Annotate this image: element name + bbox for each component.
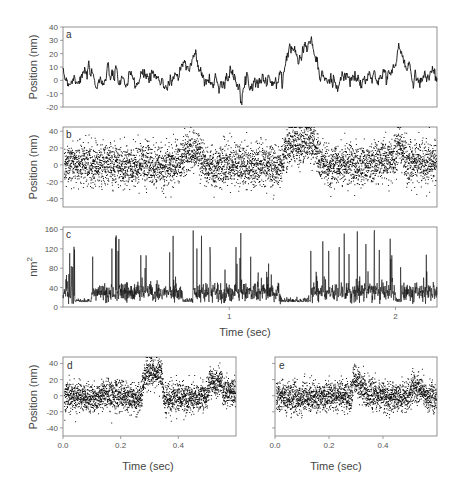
panel-b-label: b	[66, 129, 72, 140]
x-tick-label: 0.2	[323, 441, 335, 450]
panel-b: -40-2002040 b Position (nm)	[27, 127, 437, 207]
panel-d-label: d	[67, 360, 73, 371]
panel-c-ylabel-base: nm	[27, 262, 39, 277]
panel-c-label: c	[66, 229, 71, 240]
y-tick-label: 0	[54, 161, 59, 170]
panel-e-xlabel: Time (sec)	[310, 460, 362, 472]
y-tick-label: 0	[54, 303, 59, 312]
panel-d-xlabel: Time (sec)	[122, 460, 174, 472]
panel-b-ylabel: Position (nm)	[27, 135, 39, 200]
x-tick-label: 0.2	[115, 441, 127, 450]
y-tick-label: 20	[49, 144, 58, 153]
y-tick-label: -20	[46, 178, 58, 187]
panel-d-scatter	[64, 357, 236, 424]
y-tick-label: -20	[46, 408, 58, 417]
panel-c-x-ticks: 12	[227, 307, 398, 321]
panel-c-y-ticks: 04080120160	[45, 225, 63, 312]
panel-a-frame	[63, 27, 437, 107]
panel-e-label: e	[279, 360, 285, 371]
scatter-points	[64, 127, 437, 199]
panel-e: 0.00.20.4 e Time (sec)	[269, 357, 437, 472]
y-tick-label: -10	[46, 90, 58, 99]
x-tick-label: 0.0	[269, 441, 281, 450]
panel-a-label: a	[66, 29, 72, 40]
y-tick-label: 0	[54, 76, 59, 85]
figure: -20-10010203040 a Position (nm) -40-2002…	[0, 0, 465, 499]
y-tick-label: 40	[49, 359, 58, 368]
panel-e-y-ticks	[272, 363, 275, 427]
panel-a: -20-10010203040 a Position (nm)	[27, 23, 437, 112]
panel-e-x-ticks: 0.00.20.4	[269, 436, 389, 450]
y-tick-label: 120	[45, 245, 59, 254]
y-tick-label: 10	[49, 63, 58, 72]
y-tick-label: -20	[46, 103, 58, 112]
x-tick-label: 0.4	[173, 441, 185, 450]
scatter-points	[64, 357, 236, 424]
y-tick-label: 20	[49, 50, 58, 59]
y-tick-label: 30	[49, 36, 58, 45]
y-tick-label: -40	[46, 424, 58, 433]
panel-c-ylabel: nm2	[25, 257, 39, 277]
y-tick-label: 40	[49, 127, 58, 136]
y-tick-label: 20	[49, 376, 58, 385]
panel-c: 04080120160 12 c nm2 Time (sec)	[25, 225, 437, 338]
y-tick-label: -40	[46, 195, 58, 204]
y-tick-label: 80	[49, 264, 58, 273]
panel-a-trace	[63, 37, 437, 105]
panel-c-xlabel: Time (sec)	[219, 326, 271, 338]
panel-d: -40-2002040 0.00.20.4 d Position (nm) Ti…	[27, 357, 236, 472]
panel-d-y-ticks: -40-2002040	[46, 359, 63, 432]
scatter-points	[276, 364, 437, 419]
x-tick-label: 0.4	[377, 441, 389, 450]
panel-a-y-ticks: -20-10010203040	[46, 23, 63, 112]
x-tick-label: 1	[227, 312, 232, 321]
panel-d-x-ticks: 0.00.20.4	[57, 436, 184, 450]
y-tick-label: 40	[49, 23, 58, 32]
panel-c-trace	[63, 230, 437, 304]
panel-a-ylabel: Position (nm)	[27, 35, 39, 100]
panel-e-scatter	[276, 364, 437, 419]
y-tick-label: 0	[54, 392, 59, 401]
y-tick-label: 40	[49, 284, 58, 293]
panel-b-scatter	[64, 127, 437, 199]
panel-b-y-ticks: -40-2002040	[46, 127, 63, 203]
panel-d-ylabel: Position (nm)	[27, 365, 39, 430]
y-tick-label: 160	[45, 225, 59, 234]
x-tick-label: 0.0	[57, 441, 69, 450]
panel-c-ylabel-sup: 2	[25, 257, 34, 262]
x-tick-label: 2	[393, 312, 398, 321]
